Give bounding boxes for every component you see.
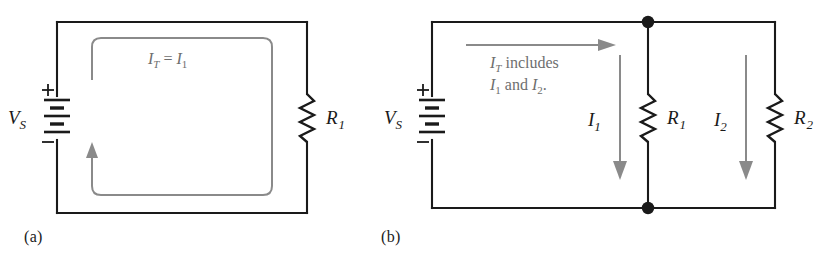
panel-a-series-circuit: VS R1 IT = I1 <box>8 22 345 213</box>
resistor-r1-a <box>300 94 314 142</box>
branch-1-current-label-b: I1 <box>587 109 601 134</box>
source-label-b: VS <box>384 107 403 132</box>
polarity-plus-b <box>417 84 429 96</box>
total-current-arrowhead-b <box>598 39 616 51</box>
resistor-label-r2-b: R2 <box>793 107 814 132</box>
total-current-note-line1-b: IT includes <box>489 54 559 74</box>
branch-1-current-arrow-b <box>613 55 627 180</box>
branch-1-current-arrowhead-b <box>613 161 627 180</box>
panel-caption-b: (b) <box>381 228 401 246</box>
junction-node-bottom-b <box>642 202 654 214</box>
branch-2-current-arrowhead-b <box>739 161 753 180</box>
battery-symbol-a <box>44 100 70 132</box>
battery-symbol-b <box>419 100 445 132</box>
total-current-equation-a: IT = I1 <box>147 50 187 70</box>
loop-current-arrowhead-a <box>86 142 98 158</box>
circuit-diagram-canvas: VS R1 IT = I1 <box>0 0 838 263</box>
junction-node-top-b <box>642 16 654 28</box>
resistor-r1-b <box>641 94 655 142</box>
resistor-label-r1-a: R1 <box>325 107 345 132</box>
resistor-r2-b <box>768 94 782 142</box>
panel-caption-a: (a) <box>24 228 43 246</box>
total-current-arrow-b <box>466 39 616 51</box>
circuit-figure: VS R1 IT = I1 <box>0 0 838 263</box>
polarity-plus-a <box>42 84 54 96</box>
resistor-label-r1-b: R1 <box>666 107 686 132</box>
source-label-a: VS <box>8 107 27 132</box>
total-current-note-line2-b: I1 and I2. <box>489 76 547 96</box>
panel-b-parallel-circuit: VS R1 R2 <box>384 16 814 214</box>
branch-2-current-arrow-b <box>739 55 753 180</box>
branch-2-current-label-b: I2 <box>713 109 727 134</box>
